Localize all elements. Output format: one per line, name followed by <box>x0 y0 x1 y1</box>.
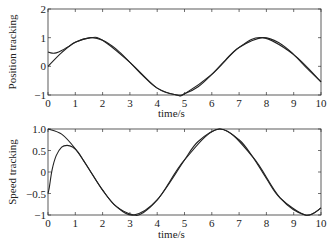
actual-curve <box>48 129 321 215</box>
reference-curve <box>48 38 321 96</box>
y-tick-label: 2 <box>41 3 47 15</box>
x-tick-label: 1 <box>73 97 79 109</box>
x-tick-label: 9 <box>291 97 297 109</box>
ticks <box>48 9 321 95</box>
y-tick-label: −0.5 <box>26 188 46 200</box>
plot-frame <box>48 9 321 95</box>
y-tick-label: 1 <box>41 32 47 44</box>
curves <box>48 129 321 215</box>
x-tick-label: 6 <box>209 97 215 109</box>
x-axis-label: time/s <box>158 228 185 240</box>
x-tick-label: 8 <box>264 97 270 109</box>
y-tick-label: −1 <box>34 89 46 101</box>
actual-curve <box>48 37 321 96</box>
x-tick-label: 0 <box>45 97 51 109</box>
tick-labels: 012345678910−1012 <box>34 3 327 109</box>
x-tick-label: 10 <box>316 217 328 229</box>
plot-frame <box>48 129 321 215</box>
y-tick-label: 0.5 <box>32 145 46 157</box>
x-tick-label: 2 <box>100 217 106 229</box>
y-tick-label: 1.0 <box>32 123 46 135</box>
x-tick-label: 2 <box>100 97 106 109</box>
x-tick-label: 0 <box>45 217 51 229</box>
x-tick-label: 3 <box>127 217 133 229</box>
y-axis-label: Speed tracking <box>6 139 18 205</box>
x-tick-label: 10 <box>316 97 328 109</box>
x-tick-label: 6 <box>209 217 215 229</box>
x-tick-label: 9 <box>291 217 297 229</box>
curves <box>48 37 321 96</box>
tick-labels: 012345678910−1−0.500.51.0 <box>26 123 327 229</box>
x-tick-label: 7 <box>236 97 242 109</box>
figure: 012345678910−1012 time/s Position tracki… <box>0 0 334 248</box>
x-tick-label: 8 <box>264 217 270 229</box>
x-axis-label: time/s <box>158 107 185 119</box>
x-tick-label: 3 <box>127 97 133 109</box>
x-tick-label: 1 <box>73 217 79 229</box>
y-tick-label: 0 <box>41 166 47 178</box>
speed-tracking-plot: 012345678910−1−0.500.51.0 time/s Speed t… <box>6 123 327 240</box>
reference-curve <box>48 129 321 215</box>
y-tick-label: 0 <box>41 60 47 72</box>
y-axis-label: Position tracking <box>6 14 18 89</box>
x-tick-label: 7 <box>236 217 242 229</box>
y-tick-label: −1 <box>34 209 46 221</box>
ticks <box>48 129 321 215</box>
position-tracking-plot: 012345678910−1012 time/s Position tracki… <box>6 3 327 119</box>
